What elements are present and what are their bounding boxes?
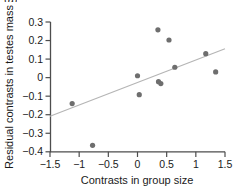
y-tick-label: −0.2 — [22, 108, 43, 120]
data-point — [158, 81, 163, 86]
data-point — [137, 92, 142, 97]
x-tick-label: 0.5 — [159, 158, 174, 170]
x-axis-title: Contrasts in group size — [81, 174, 194, 186]
y-tick-label: 0.2 — [28, 34, 43, 46]
data-points — [70, 27, 219, 148]
data-point — [70, 101, 75, 106]
x-tick-label: 1 — [193, 158, 199, 170]
chart-canvas: 0.30.20.10−0.1−0.2−0.3−0.4 −1.5−1−0.500.… — [0, 0, 236, 188]
x-tick-label: 1.5 — [218, 158, 233, 170]
data-point — [135, 73, 140, 78]
x-tick-label: −1 — [73, 158, 85, 170]
x-tick-label: −0.5 — [98, 158, 119, 170]
y-tick-label: −0.1 — [22, 90, 43, 102]
y-axis-ticks: 0.30.20.10−0.1−0.2−0.3−0.4 — [22, 16, 50, 158]
data-point — [172, 65, 177, 70]
x-tick-label: −1.5 — [40, 158, 61, 170]
regression-line — [50, 49, 225, 116]
trendline — [50, 49, 225, 116]
y-tick-label: −0.3 — [22, 127, 43, 139]
x-axis-ticks: −1.5−1−0.500.511.5 — [40, 152, 233, 170]
scatter-plot-figure: (a) 0.30.20.10−0.1−0.2−0.3−0.4 −1.5−1−0.… — [0, 0, 236, 188]
data-point — [213, 69, 218, 74]
data-point — [155, 27, 160, 32]
y-tick-label: 0 — [37, 71, 43, 83]
data-point — [203, 51, 208, 56]
y-tick-label: 0.3 — [28, 16, 43, 28]
data-point — [166, 37, 171, 42]
y-tick-label: 0.1 — [28, 53, 43, 65]
data-point — [90, 143, 95, 148]
y-axis-title: Residual contrasts in testes mass — [3, 5, 15, 169]
y-tick-label: −0.4 — [22, 145, 43, 157]
x-tick-label: 0 — [135, 158, 141, 170]
